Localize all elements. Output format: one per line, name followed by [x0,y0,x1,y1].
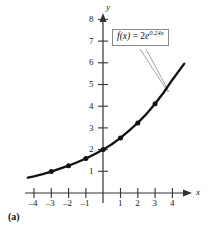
equation-equals: = [133,31,138,41]
x-tick-label-2: 2 [135,199,140,208]
x-tick-label-4: 4 [170,199,175,208]
data-point [101,147,106,152]
x-tick-label-1: 1 [118,199,123,208]
y-axis-label: y [106,3,110,12]
data-point [66,163,71,168]
y-tick-label-3: 3 [89,124,94,133]
y-tick-label-5: 5 [89,80,94,89]
y-tick-label-8: 8 [89,15,94,24]
y-tick-label-6: 6 [89,58,94,67]
equation-exponent: 0.24x [149,29,163,36]
y-tick-label-2: 2 [89,145,94,154]
x-tick-label-neg4: –4 [29,199,38,208]
data-point [83,156,88,161]
y-tick-label-7: 7 [89,37,94,46]
x-axis [25,190,192,197]
data-point [49,169,54,174]
x-tick-label-neg2: –2 [63,199,72,208]
data-point [153,101,158,106]
y-tick-label-4: 4 [89,102,94,111]
x-tick-label-neg1: –1 [80,199,89,208]
equation-function: f(x) [117,31,130,41]
x-axis-label: x [196,188,200,197]
data-point [135,120,140,125]
y-tick-label-1: 1 [89,167,94,176]
figure-caption: (a) [8,212,20,222]
leader-line [140,49,169,92]
figure-container: 8 7 6 5 4 3 2 1 –4 –3 –2 –1 1 2 3 4 y x … [0,0,216,239]
equation-label: f(x) = 2e0.24x [112,29,169,46]
x-tick-label-3: 3 [153,199,158,208]
data-point [118,135,123,140]
x-tick-label-neg3: –3 [46,199,55,208]
